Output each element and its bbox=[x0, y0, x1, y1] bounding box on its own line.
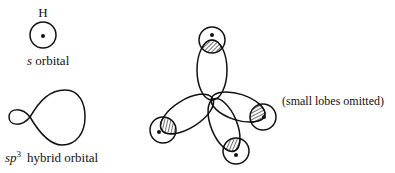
h-nucleus-left bbox=[157, 130, 161, 134]
nucleus-dot bbox=[41, 34, 45, 38]
s-orbital-caption: s orbital bbox=[27, 53, 70, 68]
sp3-hybrid-orbital: sp3hybrid orbital bbox=[5, 90, 99, 165]
s-orbital: H s orbital bbox=[27, 5, 70, 68]
lobe-left bbox=[154, 86, 220, 142]
orbital-diagram: H s orbital sp3hybrid orbital (small lob… bbox=[0, 0, 395, 173]
hydrogen-label: H bbox=[38, 5, 47, 20]
large-lobe bbox=[30, 90, 85, 145]
tetrahedral-orbitals bbox=[150, 27, 276, 164]
h-nucleus-right bbox=[262, 115, 266, 119]
omitted-note: (small lobes omitted) bbox=[282, 94, 384, 108]
small-lobe bbox=[9, 110, 30, 124]
h-nucleus-top bbox=[210, 33, 214, 37]
h-nucleus-bottom bbox=[234, 153, 238, 157]
sp3-caption: sp3hybrid orbital bbox=[5, 149, 99, 165]
